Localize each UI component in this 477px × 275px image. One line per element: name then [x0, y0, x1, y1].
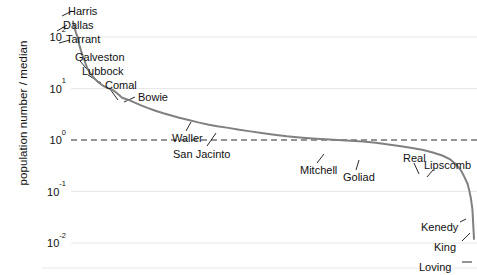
annotation-san-jacinto: San Jacinto	[173, 149, 230, 160]
annotation-lipscomb: Lipscomb	[424, 160, 471, 171]
population-curve	[73, 22, 474, 239]
annotation-tarrant: Tarrant	[66, 34, 100, 45]
annotation-harris: Harris	[68, 6, 97, 17]
leader-real	[414, 163, 419, 174]
annotation-galveston: Galveston	[75, 52, 125, 63]
annotation-kenedy: Kenedy	[421, 222, 458, 233]
annotation-leader-lines	[57, 11, 472, 262]
leader-mitchell	[317, 154, 324, 163]
annotation-loving: Loving	[419, 262, 451, 273]
annotation-king: King	[434, 242, 456, 253]
leader-goliad	[356, 160, 359, 170]
leader-waller	[186, 122, 191, 131]
annotation-waller: Waller	[172, 133, 203, 144]
annotation-mitchell: Mitchell	[300, 165, 337, 176]
annotation-lubbock: Lubbock	[82, 66, 124, 77]
leader-kenedy	[460, 219, 466, 222]
population-rank-chart: population number / median 10210110010-1…	[0, 0, 477, 275]
leader-lipscomb	[427, 170, 433, 177]
annotation-bowie: Bowie	[138, 92, 168, 103]
annotation-comal: Comal	[105, 80, 137, 91]
annotation-dallas: Dallas	[63, 20, 94, 31]
annotation-real: Real	[403, 153, 426, 164]
leader-king	[462, 233, 470, 241]
annotation-goliad: Goliad	[343, 172, 375, 183]
